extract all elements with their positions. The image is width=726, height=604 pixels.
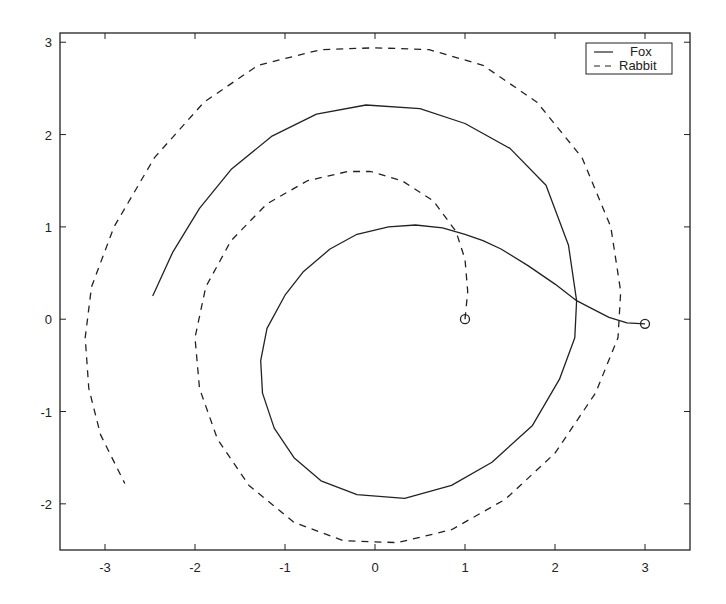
series-rabbit-line xyxy=(85,48,621,543)
x-tick-label: 3 xyxy=(641,560,648,575)
x-tick-label: -2 xyxy=(189,560,201,575)
x-tick-label: 2 xyxy=(551,560,558,575)
axis-ticks: -3-2-10123-2-10123 xyxy=(40,33,690,575)
series-layer xyxy=(85,48,649,543)
x-tick-label: -1 xyxy=(279,560,291,575)
y-tick-label: 1 xyxy=(45,220,52,235)
x-tick-label: 1 xyxy=(461,560,468,575)
y-tick-label: 3 xyxy=(45,35,52,50)
chart: -3-2-10123-2-10123 Fox Rabbit xyxy=(0,0,726,604)
y-tick-label: -2 xyxy=(40,497,52,512)
plot-area: -3-2-10123-2-10123 Fox Rabbit xyxy=(0,0,726,604)
legend: Fox Rabbit xyxy=(586,43,672,74)
x-tick-label: 0 xyxy=(371,560,378,575)
y-tick-label: 0 xyxy=(45,312,52,327)
legend-rabbit-label: Rabbit xyxy=(619,58,657,73)
x-tick-label: -3 xyxy=(99,560,111,575)
y-tick-label: 2 xyxy=(45,128,52,143)
legend-fox-label: Fox xyxy=(630,44,652,59)
series-fox-line xyxy=(153,105,645,498)
y-tick-label: -1 xyxy=(40,405,52,420)
